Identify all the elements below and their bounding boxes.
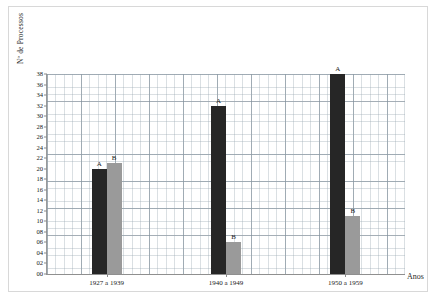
y-axis-tick-mark: [44, 84, 47, 85]
y-axis-tick-label: 20: [36, 165, 43, 172]
bar-column: B: [345, 74, 360, 274]
y-axis-tick-mark: [44, 116, 47, 117]
y-axis-tick-label: 36: [36, 81, 43, 88]
y-axis-tick-label: 30: [36, 113, 43, 120]
bar-group: AB: [330, 74, 360, 274]
y-axis-tick-label: 00: [36, 271, 43, 278]
bar-column: A: [330, 74, 345, 274]
y-axis-tick-mark: [44, 221, 47, 222]
y-axis-tick-mark: [44, 158, 47, 159]
y-axis-tick-mark: [44, 263, 47, 264]
y-axis-tick-mark: [44, 137, 47, 138]
bar-column: B: [107, 74, 122, 274]
bar-column: B: [226, 74, 241, 274]
y-axis-tick-label: 18: [36, 176, 43, 183]
bar-b: [107, 163, 122, 274]
y-axis-tick-mark: [44, 252, 47, 253]
bar-a: [92, 169, 107, 274]
y-axis-tick-mark: [44, 147, 47, 148]
bar-b: [345, 216, 360, 274]
plot-area: 3836343230282624222018161412100806040200…: [46, 74, 405, 275]
bar-group: AB: [92, 74, 122, 274]
y-axis-tick-label: 02: [36, 260, 43, 267]
y-axis-tick-label: 10: [36, 218, 43, 225]
x-axis-tick-mark: [345, 274, 346, 277]
y-axis-tick-label: 32: [36, 102, 43, 109]
y-axis-tick-mark: [44, 179, 47, 180]
y-axis-tick-label: 12: [36, 208, 43, 215]
chart-figure: Nº de Processos Anos 3836343230282624222…: [0, 0, 436, 305]
bar-series-label: A: [330, 66, 345, 73]
bar-series-label: B: [107, 155, 122, 162]
y-axis-tick-label: 06: [36, 239, 43, 246]
bar-group: AB: [211, 74, 241, 274]
y-axis-tick-label: 22: [36, 155, 43, 162]
y-axis-tick-mark: [44, 200, 47, 201]
bar-a: [330, 74, 345, 274]
y-axis-tick-label: 28: [36, 123, 43, 130]
x-axis-tick-label: 1927 a 1939: [89, 279, 124, 287]
y-axis-tick-mark: [44, 231, 47, 232]
bar-column: A: [211, 74, 226, 274]
x-axis-tick-mark: [107, 274, 108, 277]
y-axis-tick-label: 26: [36, 134, 43, 141]
y-axis-tick-label: 08: [36, 229, 43, 236]
y-axis-tick-label: 24: [36, 144, 43, 151]
y-axis-tick-mark: [44, 74, 47, 75]
y-axis-tick-label: 16: [36, 186, 43, 193]
bar-a: [211, 106, 226, 274]
bar-series-label: B: [345, 208, 360, 215]
y-axis-tick-mark: [44, 274, 47, 275]
y-axis-tick-mark: [44, 189, 47, 190]
y-axis-tick-label: 38: [36, 71, 43, 78]
x-axis-tick-label: 1950 a 1959: [328, 279, 363, 287]
x-axis-tick-mark: [226, 274, 227, 277]
y-axis-tick-label: 14: [36, 197, 43, 204]
bar-series-label: A: [211, 98, 226, 105]
y-axis-tick-mark: [44, 242, 47, 243]
y-axis-title: Nº de Processos: [16, 0, 25, 85]
bar-series-label: B: [226, 234, 241, 241]
y-axis-tick-mark: [44, 210, 47, 211]
y-axis-tick-label: 34: [36, 92, 43, 99]
x-axis-title: Anos: [407, 272, 424, 281]
y-axis-tick-label: 04: [36, 250, 43, 257]
x-axis-tick-label: 1940 a 1949: [209, 279, 244, 287]
bar-b: [226, 242, 241, 274]
y-axis-tick-mark: [44, 95, 47, 96]
y-axis-tick-mark: [44, 126, 47, 127]
y-axis-tick-mark: [44, 168, 47, 169]
bar-series-label: A: [92, 161, 107, 168]
y-axis-tick-mark: [44, 105, 47, 106]
bar-column: A: [92, 74, 107, 274]
